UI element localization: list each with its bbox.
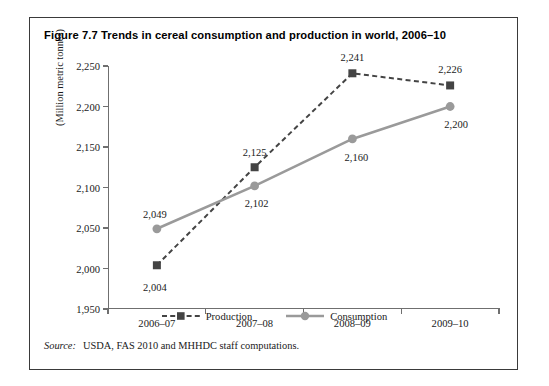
chart-legend: Production Consumption [30,310,519,322]
data-marker-production [251,163,259,171]
series-plot [108,66,499,309]
data-marker-consumption [446,102,455,111]
source-note: Source:USDA, FAS 2010 and MHHDC staff co… [44,340,299,351]
series-line-consumption [157,107,450,229]
legend-label-production: Production [206,311,253,322]
y-axis-tick-label: 2,150 [76,142,100,153]
y-axis-tick-label: 2,100 [76,182,100,193]
plot-area: 1,9502,0002,0502,1002,1502,2002,250 2006… [108,66,499,309]
data-label-consumption: 2,160 [345,151,369,162]
legend-entry-consumption[interactable]: Consumption [286,310,387,322]
data-marker-production [153,261,161,269]
consumption-legend-swatch-icon [286,310,324,322]
data-label-production: 2,125 [243,147,267,158]
data-marker-consumption [152,224,161,233]
data-label-production: 2,241 [341,52,365,63]
y-axis-tick-label: 2,200 [76,101,100,112]
legend-entry-production[interactable]: Production [162,310,253,322]
data-label-consumption: 2,049 [143,208,167,219]
data-marker-consumption [348,135,357,144]
figure-title: Figure 7.7 Trends in cereal consumption … [44,29,504,41]
data-label-consumption: 2,200 [444,118,468,129]
data-label-consumption: 2,102 [245,197,269,208]
data-marker-production [446,81,454,89]
source-label: Source: [44,340,76,351]
y-axis-tick-label: 2,000 [76,263,100,274]
production-legend-swatch-icon [162,310,200,322]
data-marker-consumption [250,181,259,190]
y-axis-title: (Million metric tonnes) [54,29,65,126]
source-text: USDA, FAS 2010 and MHHDC staff computati… [83,340,299,351]
y-axis-tick-label: 2,250 [76,61,100,72]
data-marker-production [348,69,356,77]
series-line-production [157,73,450,265]
legend-label-consumption: Consumption [330,311,387,322]
figure-frame: Figure 7.7 Trends in cereal consumption … [29,17,518,370]
data-label-production: 2,004 [143,282,167,293]
data-label-production: 2,226 [438,64,462,75]
y-axis-tick-label: 2,050 [76,223,100,234]
